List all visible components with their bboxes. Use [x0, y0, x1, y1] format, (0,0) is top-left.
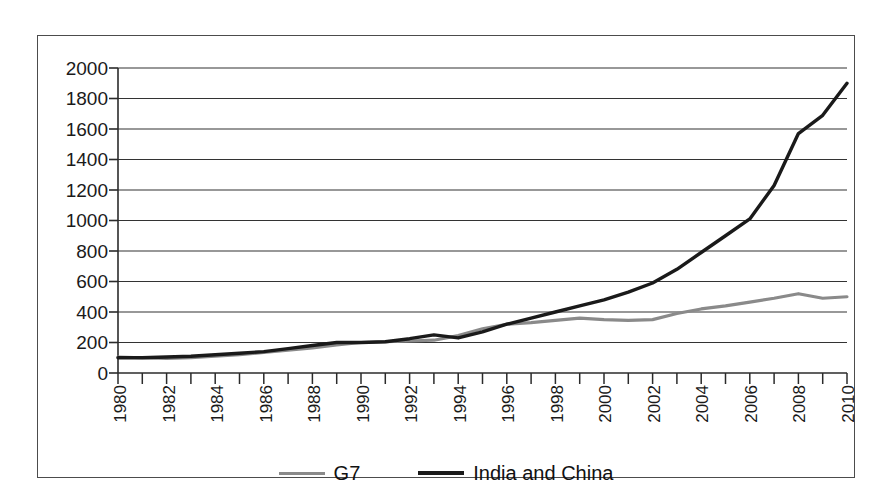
- gray-line-swatch-icon: [279, 472, 325, 475]
- x-tick-label-1998: 1998: [549, 385, 566, 423]
- x-tick-label-1994: 1994: [452, 385, 469, 423]
- y-tick-label-1800: 1800: [48, 89, 108, 108]
- y-tick-label-200: 200: [48, 333, 108, 352]
- y-tick-label-1000: 1000: [48, 211, 108, 230]
- x-tick-label-1982: 1982: [161, 385, 178, 423]
- legend-label-g7: G7: [334, 462, 361, 485]
- y-tick-label-1600: 1600: [48, 120, 108, 139]
- black-line-swatch-icon: [418, 471, 464, 475]
- x-tick-label-2008: 2008: [791, 385, 808, 423]
- x-tick-label-2000: 2000: [597, 385, 614, 423]
- y-tick-label-600: 600: [48, 272, 108, 291]
- y-tick-label-2000: 2000: [48, 59, 108, 78]
- legend-entry-g7: G7: [279, 462, 361, 485]
- x-tick-label-1980: 1980: [112, 385, 129, 423]
- x-tick-label-2006: 2006: [743, 385, 760, 423]
- x-tick-label-1992: 1992: [403, 385, 420, 423]
- x-tick-label-1986: 1986: [258, 385, 275, 423]
- x-tick-label-1996: 1996: [500, 385, 517, 423]
- chart-legend: G7 India and China: [37, 455, 855, 491]
- y-tick-label-400: 400: [48, 303, 108, 322]
- x-tick-label-1988: 1988: [306, 385, 323, 423]
- legend-label-india-and-china: India and China: [473, 462, 613, 485]
- y-tick-label-0: 0: [48, 364, 108, 383]
- chart-figure: 2000 1800 1600 1400 1200 1000 800 600 40…: [0, 0, 892, 504]
- y-tick-label-1400: 1400: [48, 150, 108, 169]
- x-tick-label-2004: 2004: [694, 385, 711, 423]
- x-tick-label-1990: 1990: [355, 385, 372, 423]
- y-tick-label-800: 800: [48, 242, 108, 261]
- x-tick-label-2002: 2002: [646, 385, 663, 423]
- x-tick-label-1984: 1984: [209, 385, 226, 423]
- x-tick-label-2010: 2010: [840, 385, 857, 423]
- y-tick-label-1200: 1200: [48, 181, 108, 200]
- legend-entry-india-and-china: India and China: [418, 462, 613, 485]
